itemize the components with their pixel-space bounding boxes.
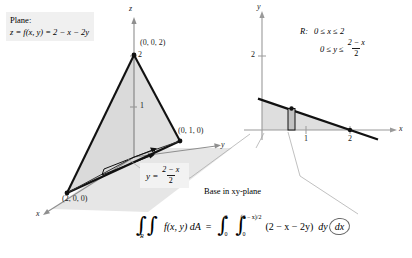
inner-lower-limit: 0 — [242, 231, 245, 237]
differential-dx-circled: dx — [331, 220, 348, 233]
region-bound-y-prefix: 0 ≤ y ≤ — [320, 44, 344, 54]
right-y-axis-arrow — [259, 11, 264, 18]
vertex-dot-apex — [132, 53, 137, 58]
leader-dx-circle — [288, 132, 358, 214]
inner-upper-limit: (2 − x)/2 — [240, 214, 261, 220]
outer-integral: ∫ 2 0 — [217, 218, 228, 234]
right-plot-x-tick-1: 1 — [304, 134, 308, 143]
curve-equation-fraction: 2 − x 2 — [160, 166, 181, 185]
y-axis-arrow — [214, 143, 221, 148]
vertex-label-apex: (0, 0, 2) — [140, 38, 165, 47]
left-plot-y-axis-label: y — [221, 140, 225, 149]
curve-equation-callout: y = 2 − x 2 — [140, 163, 189, 188]
curve-equation-denominator: 2 — [167, 175, 175, 185]
left-plot-x-axis-label: x — [36, 209, 40, 218]
x-axis-arrow — [43, 209, 50, 215]
vertex-dot-y-intercept — [178, 139, 183, 144]
region-callout: R: 0 ≤ x ≤ 2 0 ≤ y ≤ 2 − x 2 — [300, 26, 369, 61]
vertex-label-x-intercept: (2, 0, 0) — [62, 194, 87, 203]
region-bound-y-row: 0 ≤ y ≤ 2 − x 2 — [320, 39, 369, 58]
lhs-integrand-body: f(x, y) dA — [164, 221, 201, 232]
plane-callout: Plane: z = f(x, y) = 2 − x − 2y — [6, 12, 94, 41]
boundary-dot-at-2 — [348, 128, 352, 132]
right-plot-y-axis-label: y — [257, 2, 261, 11]
integral-equation: ∫∫ R f(x, y) dA = ∫ 2 0 ∫ (2 − x)/2 0 (2… — [136, 218, 348, 234]
region-bound-y-numerator: 2 − x — [346, 39, 367, 48]
region-bound-x: 0 ≤ x ≤ 2 — [314, 26, 344, 36]
region-bound-x-row: R: 0 ≤ x ≤ 2 — [300, 26, 369, 36]
strip-top-dot — [289, 106, 293, 110]
curve-equation-prefix: y = — [146, 171, 158, 181]
math-figure-double-integral: Plane: z = f(x, y) = 2 − x − 2y R: 0 ≤ x… — [0, 0, 412, 258]
inner-upper-limit-text: (2 − x)/2 — [240, 214, 261, 220]
differential-dy: dy — [318, 221, 327, 232]
curve-equation-numerator: 2 − x — [160, 166, 181, 175]
right-plot-y-tick-2: 2 — [251, 50, 255, 59]
left-plot-z-axis-label: z — [129, 4, 132, 13]
outer-lower-limit: 0 — [224, 231, 227, 237]
left-plot-z-tick-1: 1 — [140, 101, 144, 110]
plane-callout-equation: z = f(x, y) = 2 − x − 2y — [10, 27, 89, 37]
integrand-expression: (2 − x − 2y) — [265, 221, 313, 232]
right-plot-x-tick-2: 2 — [348, 134, 352, 143]
leader-strip-to-base — [256, 133, 264, 148]
equals-sign: = — [206, 221, 212, 232]
lhs-double-integral: ∫∫ R — [136, 218, 158, 234]
inner-integral: ∫ (2 − x)/2 0 — [235, 218, 246, 234]
left-plot-z-tick-2: 2 — [138, 50, 142, 59]
region-callout-label: R: — [300, 26, 308, 36]
base-plane-label: Base in xy-plane — [204, 186, 261, 196]
z-axis-arrow — [131, 17, 136, 24]
outer-upper-limit: 2 — [224, 214, 227, 220]
vertical-strip — [288, 109, 295, 131]
integral-subscript-region: R — [140, 233, 144, 239]
region-bound-y-fraction: 2 − x 2 — [346, 39, 367, 58]
vertex-label-y-intercept: (0, 1, 0) — [178, 126, 203, 135]
right-plot-x-axis-label: x — [399, 124, 403, 133]
base-plane-label-text: Base in xy-plane — [204, 186, 261, 196]
region-bound-y-denominator: 2 — [352, 48, 360, 58]
right-x-axis-arrow — [390, 127, 397, 132]
plane-callout-heading: Plane: — [10, 15, 89, 25]
